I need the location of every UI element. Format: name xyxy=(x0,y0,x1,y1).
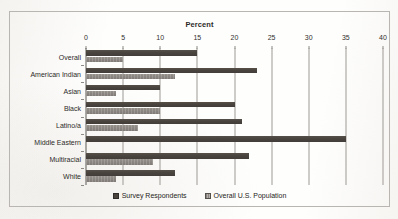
chart-title: Percent xyxy=(10,20,389,29)
y-axis-category-label: American Indian xyxy=(30,70,81,77)
bar xyxy=(86,119,242,125)
bar xyxy=(86,102,235,108)
bar xyxy=(86,108,160,114)
y-axis-tick-mark xyxy=(81,117,84,118)
y-axis-category-labels: OverallAmerican IndianAsianBlackLatino/a… xyxy=(10,48,84,185)
legend-swatch-icon xyxy=(113,193,119,199)
bar xyxy=(86,170,175,176)
bar xyxy=(86,50,197,56)
gridline xyxy=(271,48,272,185)
x-axis-tick-label: 35 xyxy=(342,34,350,41)
y-axis-category-label: Latino/a xyxy=(56,122,81,129)
legend-label: Overall U.S. Population xyxy=(214,192,287,199)
bar xyxy=(86,136,346,142)
legend-item: Overall U.S. Population xyxy=(205,192,287,199)
x-axis-tick-label: 15 xyxy=(193,34,201,41)
y-axis-tick-mark xyxy=(81,134,84,135)
bar xyxy=(86,91,116,97)
y-axis-category-label: Overall xyxy=(59,53,81,60)
bar xyxy=(86,153,249,159)
x-axis-tick-label: 40 xyxy=(379,34,387,41)
legend-swatch-icon xyxy=(205,193,211,199)
chart-frame: Percent 0510152025303540 OverallAmerican… xyxy=(9,11,390,207)
y-axis-tick-mark xyxy=(81,99,84,100)
x-axis-tick-label: 30 xyxy=(305,34,313,41)
x-axis-tick-labels: 0510152025303540 xyxy=(86,34,383,46)
gridline xyxy=(345,48,346,185)
y-axis-tick-mark xyxy=(81,151,84,152)
bar xyxy=(86,68,257,74)
y-axis-category-label: White xyxy=(63,173,81,180)
y-axis-category-label: Black xyxy=(64,104,81,111)
y-axis-category-label: Asian xyxy=(63,87,81,94)
bar xyxy=(86,74,175,80)
y-axis-tick-mark xyxy=(81,82,84,83)
plot-area xyxy=(86,48,383,185)
y-axis-category-label: Middle Eastern xyxy=(34,139,81,146)
legend-item: Survey Respondents xyxy=(113,192,187,199)
x-axis-tick-label: 10 xyxy=(156,34,164,41)
y-axis-category-label: Multiracial xyxy=(49,156,81,163)
legend-label: Survey Respondents xyxy=(122,192,187,199)
x-axis-tick-label: 5 xyxy=(121,34,125,41)
chart-page: Percent 0510152025303540 OverallAmerican… xyxy=(0,0,398,219)
chart-legend: Survey RespondentsOverall U.S. Populatio… xyxy=(10,192,389,199)
bar xyxy=(86,57,123,63)
x-axis-tick-label: 0 xyxy=(84,34,88,41)
y-axis-tick-mark xyxy=(81,185,84,186)
y-axis-tick-mark xyxy=(81,65,84,66)
bar xyxy=(86,159,153,165)
gridline xyxy=(308,48,309,185)
y-axis-tick-mark xyxy=(81,168,84,169)
x-axis-tick-label: 25 xyxy=(268,34,276,41)
bar xyxy=(86,176,116,182)
bar xyxy=(86,85,160,91)
gridline xyxy=(383,48,384,185)
bar xyxy=(86,125,138,131)
x-axis-tick-label: 20 xyxy=(231,34,239,41)
